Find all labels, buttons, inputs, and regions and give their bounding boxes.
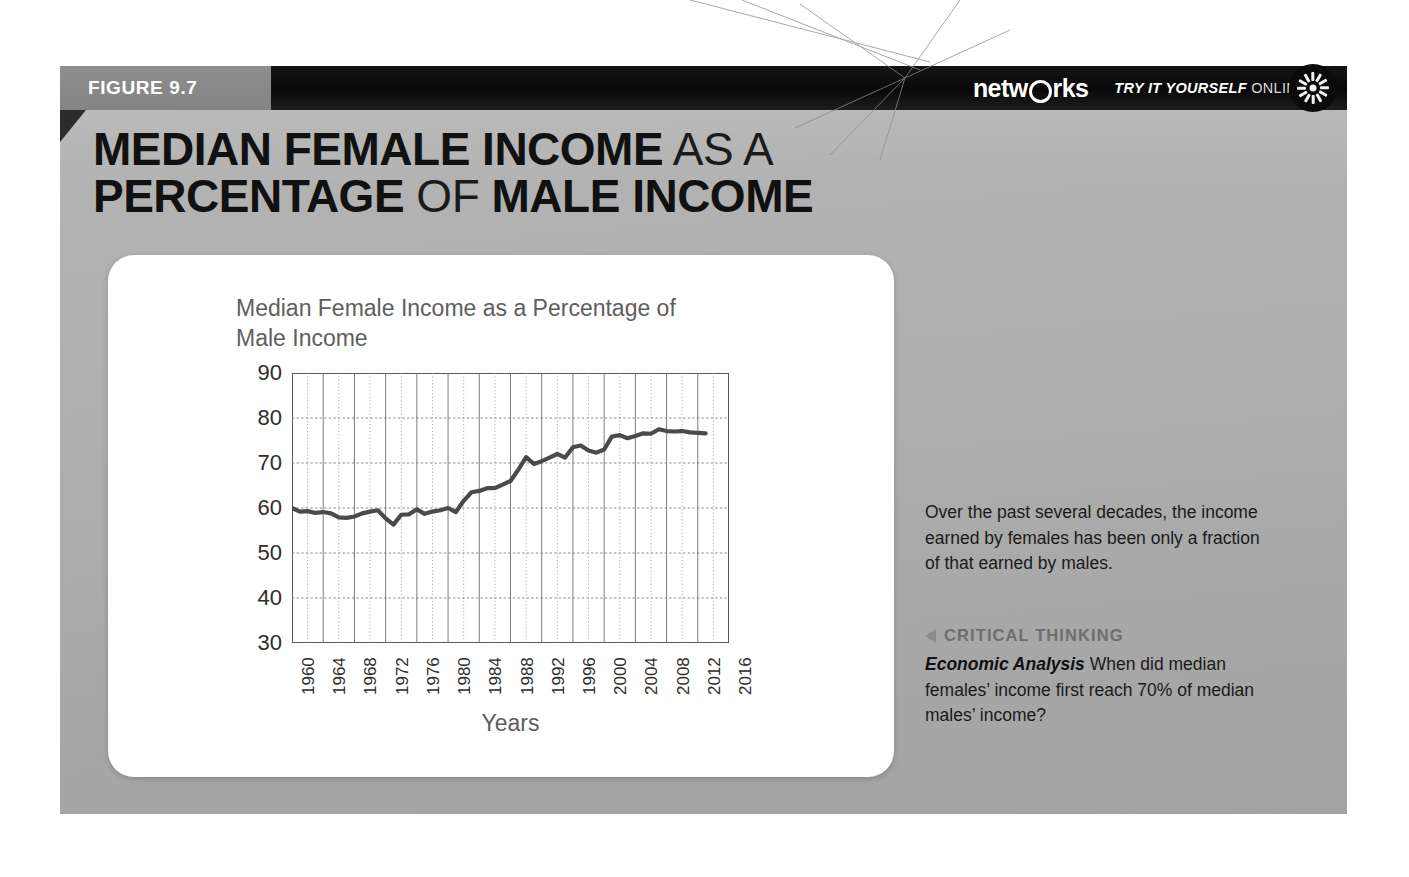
y-axis-tick-label: 30 [222,632,282,654]
critical-thinking-label: CRITICAL THINKING [944,626,1124,645]
chart-card: Median Female Income as a Percentage of … [108,255,894,777]
x-axis-tick-label: 2008 [675,657,692,695]
networks-logo-ring-icon [1029,80,1052,103]
headline-bold-2: PERCENTAGE [93,170,404,222]
x-axis-tick-label: 1980 [456,657,473,695]
question-lead-label: Economic Analysis [925,654,1085,674]
y-axis-tick-label: 90 [222,362,282,384]
caption-text: Over the past several decades, the incom… [925,500,1277,577]
figure-number-tab: FIGURE 9.7 [60,66,271,110]
headline-line-2: PERCENTAGE OF MALE INCOME [93,173,1213,220]
headline-light-1: AS A [673,123,773,175]
x-axis-tick-label: 1988 [519,657,536,695]
headline-bold-1: MEDIAN FEMALE INCOME [93,123,663,175]
y-axis-tick-label: 40 [222,587,282,609]
figure-number-label: FIGURE 9.7 [60,77,197,99]
y-axis-tick-label: 50 [222,542,282,564]
x-axis-tick-label: 1960 [300,657,317,695]
headline-line-1: MEDIAN FEMALE INCOME AS A [93,126,1213,173]
y-axis-tick-label: 60 [222,497,282,519]
x-axis-tick-label: 1984 [487,657,504,695]
headline-light-2: OF [416,170,479,222]
x-axis-title: Years [292,710,729,737]
y-axis-tick-label: 70 [222,452,282,474]
critical-thinking-question: Economic Analysis When did median female… [925,652,1285,729]
headline-bold-3: MALE INCOME [492,170,814,222]
page-title: MEDIAN FEMALE INCOME AS A PERCENTAGE OF … [93,126,1213,220]
try-it-yourself-link[interactable]: TRY IT YOURSELF ONLINE [1114,80,1307,96]
networks-logo: netw rks [973,74,1088,103]
x-axis-tick-label: 1996 [581,657,598,695]
x-axis-tick-label: 1972 [394,657,411,695]
x-axis-tick-label: 1964 [331,657,348,695]
sunburst-core [1310,85,1317,92]
x-axis-tick-label: 2004 [643,657,660,695]
left-triangle-icon [925,629,936,643]
networks-logo-pre: netw [973,74,1028,103]
figure-page: FIGURE 9.7 netw rks TRY IT YOURSELF ONLI… [0,0,1409,877]
networks-banner: netw rks TRY IT YOURSELF ONLINE [271,66,1347,110]
plot-area: 30405060708090 1960196419681972197619801… [108,255,894,777]
x-axis-tick-label: 1992 [550,657,567,695]
critical-thinking-heading: CRITICAL THINKING [925,626,1277,645]
x-axis-tick-label: 1976 [425,657,442,695]
x-axis-tick-label: 2000 [612,657,629,695]
x-axis-tick-label: 1968 [362,657,379,695]
y-axis-tick-label: 80 [222,407,282,429]
x-axis-tick-label: 2012 [706,657,723,695]
networks-logo-post: rks [1053,74,1089,103]
line-chart-svg [292,373,729,643]
x-axis-tick-label: 2016 [737,657,754,695]
try-it-yourself-label: TRY IT YOURSELF [1114,80,1247,96]
sunburst-icon[interactable] [1289,64,1337,112]
footer-url[interactable]: connected.mcgraw-hill.com [1130,832,1363,853]
